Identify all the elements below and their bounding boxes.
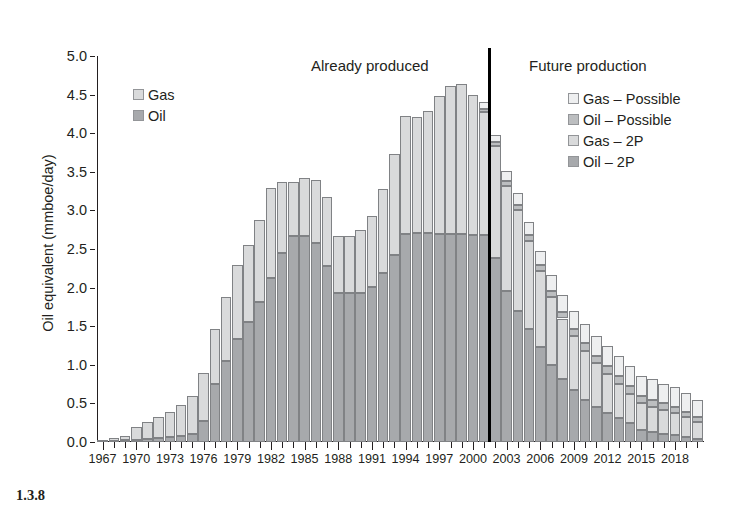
bar-segment-oil-2p	[636, 430, 647, 442]
legend-item: Oil – Possible	[568, 109, 681, 130]
x-tick-label: 1985	[291, 452, 319, 466]
bar-column	[378, 56, 389, 442]
x-tick-mark	[383, 442, 384, 448]
x-tick-mark	[563, 442, 564, 448]
x-tick-mark	[574, 442, 575, 450]
legend-label: Oil	[148, 108, 166, 124]
bar-segment-oil-possible	[490, 142, 501, 146]
x-tick-mark	[249, 442, 250, 448]
bar-column	[322, 56, 333, 442]
bar-segment-oil-2p	[546, 365, 557, 442]
bar-segment-oil-2p	[400, 234, 411, 442]
x-tick-mark	[518, 442, 519, 448]
y-tick-mark	[90, 95, 95, 96]
bar-segment-oil-2p	[445, 234, 456, 442]
bar-column	[535, 56, 546, 442]
bar-segment-oil-possible	[681, 412, 692, 417]
bar-segment-oil-2p	[344, 293, 355, 442]
x-tick-mark	[608, 442, 609, 450]
legend-item: Oil	[133, 105, 175, 126]
bar-segment-oil-possible	[569, 329, 580, 336]
bar-column	[288, 56, 299, 442]
x-axis-ticks	[97, 442, 704, 450]
x-tick-mark	[361, 442, 362, 448]
production-divider-line	[488, 48, 491, 442]
y-tick-mark	[90, 365, 95, 366]
x-tick-mark	[282, 442, 283, 448]
bar-segment-oil-2p	[535, 347, 546, 442]
x-tick-mark	[630, 442, 631, 448]
bar-segment-gas-possible	[580, 324, 591, 343]
y-tick-label: 2.5	[67, 242, 87, 257]
bar-segment-gas-2p	[378, 189, 389, 273]
bar-segment-gas-2p	[232, 265, 243, 339]
x-tick-mark	[428, 442, 429, 448]
bar-segment-oil-2p	[513, 311, 524, 442]
bar-segment-oil-possible	[524, 235, 535, 240]
bar-segment-gas-possible	[670, 387, 681, 406]
bar-segment-oil-2p	[221, 361, 232, 442]
bar-segment-oil-2p	[288, 236, 299, 442]
bar-segment-oil-2p	[389, 255, 400, 442]
x-tick-label: 2009	[560, 452, 588, 466]
bar-segment-oil-2p	[254, 302, 265, 443]
y-tick-label: 3.5	[67, 165, 87, 180]
legend-label: Gas – 2P	[583, 133, 643, 149]
x-tick-mark	[226, 442, 227, 448]
bar-segment-gas-2p	[333, 236, 344, 293]
bar-column	[221, 56, 232, 442]
bar-segment-gas-possible	[513, 193, 524, 205]
x-tick-label: 1982	[257, 452, 285, 466]
y-axis-labels: 0.00.51.01.52.02.53.03.54.04.55.0	[0, 56, 95, 442]
x-tick-mark	[181, 442, 182, 448]
bar-segment-gas-2p	[210, 329, 221, 385]
x-tick-mark	[215, 442, 216, 448]
legend-future: Gas – PossibleOil – PossibleGas – 2POil …	[568, 88, 681, 172]
x-tick-mark	[686, 442, 687, 448]
x-tick-mark	[125, 442, 126, 448]
x-tick-mark	[394, 442, 395, 448]
x-axis-labels: 1967197019731976197919821985198819911994…	[0, 452, 738, 472]
bar-segment-oil-possible	[591, 356, 602, 364]
bar-segment-gas-2p	[524, 241, 535, 330]
bar-segment-oil-possible	[636, 396, 647, 403]
bar-segment-gas-possible	[614, 356, 625, 376]
bar-column	[468, 56, 479, 442]
bar-column	[490, 56, 501, 442]
x-tick-mark	[664, 442, 665, 448]
bar-segment-gas-2p	[367, 216, 378, 287]
x-tick-label: 1976	[190, 452, 218, 466]
x-tick-mark	[136, 442, 137, 450]
x-tick-mark	[552, 442, 553, 448]
y-tick-label: 0.5	[67, 396, 87, 411]
bar-segment-gas-2p	[299, 178, 310, 236]
x-tick-mark	[473, 442, 474, 450]
y-tick-label: 4.5	[67, 88, 87, 103]
x-tick-label: 2018	[661, 452, 689, 466]
bar-segment-gas-2p	[322, 197, 333, 266]
bar-segment-gas-possible	[524, 222, 535, 235]
bar-segment-gas-2p	[636, 403, 647, 430]
x-tick-mark	[159, 442, 160, 448]
bar-segment-gas-2p	[658, 410, 669, 434]
legend-item: Oil – 2P	[568, 151, 681, 172]
bar-segment-gas-2p	[277, 182, 288, 253]
bar-segment-gas-possible	[569, 311, 580, 330]
bar-column	[254, 56, 265, 442]
bar-column	[389, 56, 400, 442]
bar-segment-gas-2p	[266, 188, 277, 278]
figure-caption: 1.3.8	[16, 487, 45, 504]
bar-segment-gas-possible	[490, 135, 501, 143]
legend-label: Gas – Possible	[583, 91, 681, 107]
legend-swatch-icon	[133, 89, 144, 100]
x-tick-mark	[271, 442, 272, 450]
x-tick-label: 1997	[425, 452, 453, 466]
bar-segment-oil-2p	[322, 266, 333, 442]
bar-segment-oil-2p	[412, 233, 423, 442]
bar-column	[187, 56, 198, 442]
bar-segment-gas-2p	[625, 394, 636, 423]
bar-column	[311, 56, 322, 442]
bar-column	[367, 56, 378, 442]
bar-column	[524, 56, 535, 442]
bar-column	[681, 56, 692, 442]
